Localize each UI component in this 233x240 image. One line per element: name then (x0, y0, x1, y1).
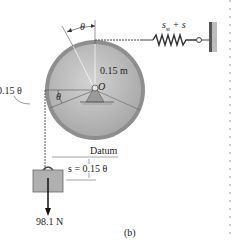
hanging-block (33, 167, 63, 216)
figure-caption: (b) (124, 228, 136, 238)
wall (209, 22, 212, 52)
theta-top-label: θ (80, 22, 85, 32)
spring-label-rest: + s (170, 19, 186, 30)
spring-label: sst + s (162, 20, 186, 32)
datum-label: Datum (90, 146, 117, 156)
arc-length-label: 0.15 θ (0, 86, 22, 96)
radius-label: 0.15 m (100, 66, 128, 76)
displacement-label: s = 0.15 θ (68, 164, 107, 174)
pulley-spring-diagram (0, 0, 233, 240)
spring (153, 35, 196, 45)
pulley-disk (45, 40, 145, 140)
theta-inner-label: θ (56, 92, 61, 102)
weight-label: 98.1 N (36, 217, 63, 227)
pivot-label: O (98, 82, 105, 92)
